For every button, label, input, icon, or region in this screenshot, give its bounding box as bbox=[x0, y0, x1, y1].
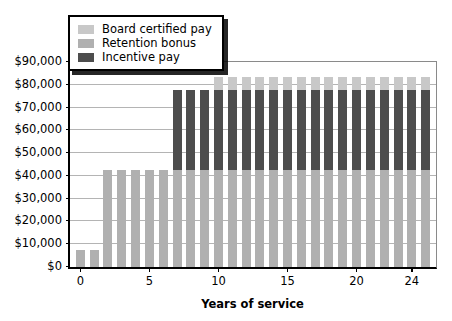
bar-segment bbox=[145, 170, 154, 267]
bar-segment bbox=[311, 77, 320, 91]
bar-stack[interactable] bbox=[324, 77, 333, 267]
bar-segment bbox=[186, 170, 195, 267]
legend-item-retention-bonus[interactable]: Retention bonus bbox=[78, 36, 212, 50]
bar-stack[interactable] bbox=[394, 77, 403, 267]
bars-layer bbox=[70, 62, 436, 267]
bar-segment bbox=[228, 170, 237, 267]
bar-segment bbox=[283, 90, 292, 170]
bar-segment bbox=[366, 90, 375, 170]
bar-stack[interactable] bbox=[283, 77, 292, 267]
bar-stack[interactable] bbox=[352, 77, 361, 267]
x-axis-title: Years of service bbox=[68, 297, 437, 311]
y-axis-tick-mark bbox=[66, 84, 70, 85]
y-axis-tick-label: $70,000 bbox=[10, 100, 68, 114]
bar-segment bbox=[90, 250, 99, 267]
x-axis-tick-label: 20 bbox=[349, 274, 364, 288]
bar-stack[interactable] bbox=[200, 90, 209, 267]
y-axis-tick-mark bbox=[66, 266, 70, 267]
bar-stack[interactable] bbox=[145, 170, 154, 267]
bar-segment bbox=[242, 77, 251, 91]
x-axis-tick-label: 24 bbox=[405, 274, 420, 288]
y-axis-tick-mark bbox=[66, 107, 70, 108]
bar-stack[interactable] bbox=[297, 77, 306, 267]
legend-item-incentive-pay[interactable]: Incentive pay bbox=[78, 50, 212, 64]
x-axis-tick-label: 15 bbox=[280, 274, 295, 288]
bar-segment bbox=[173, 170, 182, 267]
bar-segment bbox=[380, 90, 389, 170]
bar-segment bbox=[352, 170, 361, 267]
bar-stack[interactable] bbox=[131, 170, 140, 267]
bar-stack[interactable] bbox=[255, 77, 264, 267]
bar-segment bbox=[228, 90, 237, 170]
bar-segment bbox=[338, 170, 347, 267]
bar-segment bbox=[380, 170, 389, 267]
x-axis-tick-mark bbox=[287, 267, 289, 272]
bar-segment bbox=[394, 77, 403, 91]
y-axis-tick-mark bbox=[66, 152, 70, 153]
bar-segment bbox=[407, 170, 416, 267]
bar-segment bbox=[324, 170, 333, 267]
bar-segment bbox=[380, 77, 389, 91]
bar-segment bbox=[421, 90, 430, 170]
bar-segment bbox=[421, 77, 430, 91]
x-axis-tick-mark bbox=[411, 267, 413, 272]
bar-segment bbox=[214, 90, 223, 170]
bar-stack[interactable] bbox=[90, 250, 99, 267]
bar-stack[interactable] bbox=[366, 77, 375, 267]
y-axis-tick-mark bbox=[66, 243, 70, 244]
y-axis-tick-label: $30,000 bbox=[10, 191, 68, 205]
bar-stack[interactable] bbox=[380, 77, 389, 267]
bar-stack[interactable] bbox=[242, 77, 251, 267]
bar-segment bbox=[269, 77, 278, 91]
bar-segment bbox=[324, 90, 333, 170]
bar-segment bbox=[269, 90, 278, 170]
x-axis-tick-label: 10 bbox=[211, 274, 226, 288]
bar-segment bbox=[131, 170, 140, 267]
bar-segment bbox=[338, 77, 347, 91]
bar-stack[interactable] bbox=[228, 77, 237, 267]
bar-stack[interactable] bbox=[421, 77, 430, 267]
legend-item-board-certified-pay[interactable]: Board certified pay bbox=[78, 22, 212, 36]
bar-stack[interactable] bbox=[407, 77, 416, 267]
bar-stack[interactable] bbox=[159, 170, 168, 267]
bar-segment bbox=[394, 170, 403, 267]
x-axis-tick-mark bbox=[80, 267, 82, 272]
bar-segment bbox=[159, 170, 168, 267]
bar-segment bbox=[352, 90, 361, 170]
legend: Board certified pay Retention bonus Ince… bbox=[68, 15, 224, 71]
bar-stack[interactable] bbox=[103, 170, 112, 267]
y-axis-tick-mark bbox=[66, 220, 70, 221]
y-axis-tick-label: $80,000 bbox=[10, 77, 68, 91]
bar-stack[interactable] bbox=[214, 77, 223, 267]
y-axis-tick-label: $90,000 bbox=[10, 54, 68, 68]
bar-stack[interactable] bbox=[173, 90, 182, 267]
bar-segment bbox=[255, 170, 264, 267]
bar-segment bbox=[421, 170, 430, 267]
bar-segment bbox=[311, 170, 320, 267]
bar-segment bbox=[103, 170, 112, 267]
bar-segment bbox=[338, 90, 347, 170]
bar-segment bbox=[366, 170, 375, 267]
bar-segment bbox=[200, 90, 209, 170]
plot-area: 0510152024 bbox=[68, 61, 437, 269]
bar-stack[interactable] bbox=[311, 77, 320, 267]
bar-segment bbox=[297, 170, 306, 267]
bar-stack[interactable] bbox=[186, 90, 195, 267]
bar-stack[interactable] bbox=[338, 77, 347, 267]
bar-stack[interactable] bbox=[76, 250, 85, 267]
bar-stack[interactable] bbox=[269, 77, 278, 267]
bar-segment bbox=[117, 170, 126, 267]
y-axis-tick-label: $0 bbox=[10, 259, 68, 273]
bar-segment bbox=[228, 77, 237, 91]
y-axis-tick-label: $40,000 bbox=[10, 168, 68, 182]
bar-stack[interactable] bbox=[117, 170, 126, 267]
x-axis-tick-mark bbox=[356, 267, 358, 272]
bar-segment bbox=[200, 170, 209, 267]
legend-swatch-retention-bonus bbox=[78, 39, 94, 48]
bar-segment bbox=[283, 77, 292, 91]
bar-segment bbox=[269, 170, 278, 267]
legend-label-board-certified-pay: Board certified pay bbox=[102, 22, 212, 36]
x-axis-tick-mark bbox=[218, 267, 220, 272]
bar-segment bbox=[214, 170, 223, 267]
bar-segment bbox=[407, 77, 416, 91]
